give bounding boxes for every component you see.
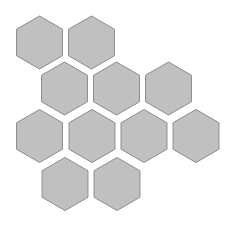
hexagon-grid-diagram — [0, 0, 232, 225]
